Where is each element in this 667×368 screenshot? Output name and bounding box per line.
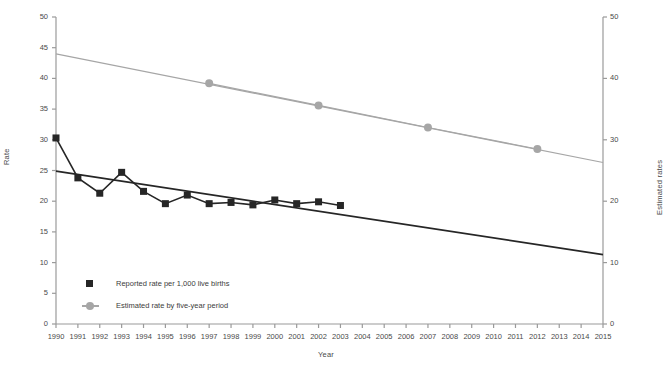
y-axis-left-tick-35: 35 xyxy=(28,104,48,113)
y-axis-right-tick-0: 0 xyxy=(610,319,632,328)
x-axis-tick-2015: 2015 xyxy=(588,332,618,341)
legend-label-estimated: Estimated rate by five-year period xyxy=(116,301,228,310)
y-axis-right-tick-30: 30 xyxy=(610,135,632,144)
y-axis-left-tick-50: 50 xyxy=(28,12,48,21)
y-axis-right-title: Estimated rates xyxy=(655,160,664,215)
chart-plot-area xyxy=(0,0,667,368)
y-axis-right-tick-10: 10 xyxy=(610,258,632,267)
y-axis-left-tick-45: 45 xyxy=(28,43,48,52)
trend-lines-group xyxy=(56,54,603,255)
y-axis-left-tick-10: 10 xyxy=(28,258,48,267)
y-axis-left-tick-0: 0 xyxy=(28,319,48,328)
y-axis-right-tick-50: 50 xyxy=(610,12,632,21)
y-axis-left-tick-5: 5 xyxy=(28,288,48,297)
chart-container: Rate Estimated rates Year 05101520253035… xyxy=(0,0,667,368)
data-series-group xyxy=(53,79,542,209)
legend-label-reported: Reported rate per 1,000 live births xyxy=(116,279,229,288)
y-axis-left-tick-20: 20 xyxy=(28,196,48,205)
square-marker-icon xyxy=(86,280,93,287)
y-axis-right-tick-40: 40 xyxy=(610,73,632,82)
y-axis-left-tick-30: 30 xyxy=(28,135,48,144)
circle-marker-icon xyxy=(86,302,94,310)
y-axis-left-tick-25: 25 xyxy=(28,166,48,175)
y-axis-right-tick-20: 20 xyxy=(610,196,632,205)
y-axis-left-tick-15: 15 xyxy=(28,227,48,236)
y-axis-left-title: Rate xyxy=(2,148,11,165)
y-axis-left-tick-40: 40 xyxy=(28,73,48,82)
x-axis-title: Year xyxy=(318,350,334,359)
